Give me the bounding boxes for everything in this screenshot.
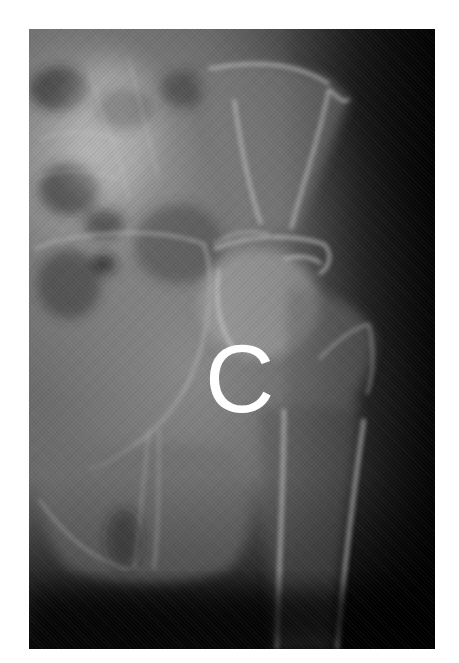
ischiopubic-density	[39, 445, 248, 584]
xray-image: C	[29, 29, 435, 649]
iliac-wing-fill	[194, 63, 349, 229]
obturator-shadow	[106, 509, 142, 569]
panel-label: C	[205, 329, 271, 429]
lower-dark-region	[29, 589, 435, 649]
figure-page: C	[0, 0, 459, 663]
sacrum-density	[64, 59, 154, 199]
